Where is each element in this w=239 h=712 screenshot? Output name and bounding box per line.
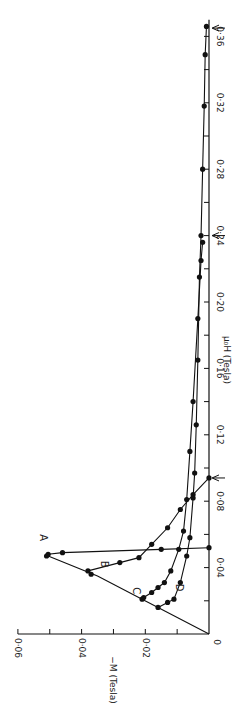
curve-label-b: B <box>99 561 110 568</box>
series-line-d <box>158 26 206 607</box>
curves <box>44 24 212 634</box>
data-point <box>46 552 51 557</box>
data-point <box>184 497 189 502</box>
data-point <box>206 475 211 480</box>
data-point <box>155 585 160 590</box>
series-line-initial-meissner-line <box>48 556 209 634</box>
data-point <box>181 528 186 533</box>
data-point <box>171 597 176 602</box>
data-point <box>192 470 197 475</box>
data-point <box>178 507 183 512</box>
h-tick-label: 0·08 <box>215 491 225 511</box>
data-point <box>60 550 65 555</box>
data-point <box>190 495 195 500</box>
m-tick-label: 0·06 <box>13 638 23 658</box>
curve-label-c: C <box>131 587 142 594</box>
x-axis-label: μ₀H (Tesla) <box>222 336 232 384</box>
data-point <box>190 399 195 404</box>
data-point <box>195 316 200 321</box>
origin-label: 0 <box>212 639 222 645</box>
m-tick-label: 0·02 <box>141 638 151 658</box>
data-point <box>198 258 203 263</box>
data-point <box>203 52 208 57</box>
data-point <box>202 104 207 109</box>
data-point <box>168 568 173 573</box>
data-point <box>187 535 192 540</box>
data-point <box>204 24 209 29</box>
y-axis-label: −M (Tesla) <box>108 656 118 703</box>
data-point <box>141 595 146 600</box>
curve-label-a: A <box>38 534 49 541</box>
data-point <box>206 545 211 550</box>
data-point <box>184 553 189 558</box>
h-tick-label: 0·20 <box>215 292 225 312</box>
data-point <box>165 525 170 530</box>
data-point <box>149 542 154 547</box>
m-tick-label: 0·04 <box>77 638 87 658</box>
data-point <box>85 568 90 573</box>
data-point <box>194 422 199 427</box>
data-point <box>159 547 164 552</box>
data-point <box>165 600 170 605</box>
labels: 0·040·080·120·160·200·240·280·320·360·02… <box>13 25 231 704</box>
data-point <box>176 547 181 552</box>
h-tick-label: 0·04 <box>215 558 225 578</box>
data-point <box>195 358 200 363</box>
magnetization-chart: 0·040·080·120·160·200·240·280·320·360·02… <box>0 0 239 712</box>
data-point <box>117 560 122 565</box>
data-point <box>149 590 154 595</box>
data-point <box>197 275 202 280</box>
h-tick-label: 0·28 <box>215 159 225 179</box>
data-point <box>162 580 167 585</box>
data-point <box>155 605 160 610</box>
h-tick-label: 0·32 <box>215 93 225 113</box>
h-tick-label: 0·12 <box>215 425 225 445</box>
data-point <box>136 555 141 560</box>
data-point <box>200 167 205 172</box>
data-point <box>187 449 192 454</box>
curve-label-d: D <box>174 584 185 592</box>
data-point <box>198 233 203 238</box>
